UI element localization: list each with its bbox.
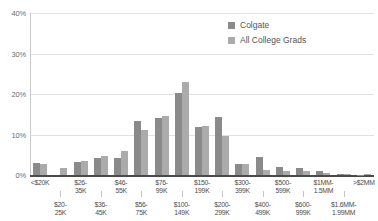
tick-mark xyxy=(263,191,264,197)
bar-group xyxy=(313,13,333,175)
bar xyxy=(283,171,290,175)
bar-group xyxy=(70,13,90,175)
bar xyxy=(276,167,283,175)
bar xyxy=(195,127,202,175)
bar-group xyxy=(111,13,131,175)
tick-mark xyxy=(182,191,183,197)
legend-item-colgate: Colgate xyxy=(228,20,306,30)
income-distribution-chart: 0%10%20%30%40% Colgate All College Grads… xyxy=(0,0,378,221)
bar-group xyxy=(30,13,50,175)
legend-swatch-icon xyxy=(228,37,235,44)
bar xyxy=(296,168,303,175)
bar xyxy=(215,117,222,175)
legend-label: Colgate xyxy=(240,20,269,30)
bar xyxy=(242,164,249,175)
bar xyxy=(256,157,263,175)
bar xyxy=(81,161,88,175)
bar-group xyxy=(151,13,171,175)
chart-legend: Colgate All College Grads xyxy=(228,20,306,50)
x-axis-tick-label-text: >$2MM xyxy=(348,179,378,187)
bar xyxy=(316,171,323,175)
tick-mark xyxy=(141,191,142,197)
bar xyxy=(337,174,344,175)
bar-group xyxy=(334,13,354,175)
bar xyxy=(235,164,242,175)
bar xyxy=(33,163,40,175)
bar xyxy=(323,173,330,175)
y-axis-tick-label: 20% xyxy=(0,90,26,99)
bar xyxy=(162,116,169,175)
bar xyxy=(175,93,182,175)
bar-group xyxy=(131,13,151,175)
tick-mark xyxy=(303,191,304,197)
bar xyxy=(101,156,108,175)
bar xyxy=(121,151,128,175)
bar xyxy=(74,162,81,175)
bar xyxy=(134,121,141,175)
y-axis-tick-label: 10% xyxy=(0,131,26,140)
bar-group xyxy=(172,13,192,175)
bar xyxy=(263,170,270,175)
tick-mark xyxy=(101,191,102,197)
legend-swatch-icon xyxy=(228,22,235,29)
tick-mark xyxy=(344,191,345,197)
tick-mark xyxy=(222,191,223,197)
bar xyxy=(222,136,229,175)
bar xyxy=(60,168,67,175)
bar xyxy=(344,174,351,175)
x-axis-tick-label: >$2MM xyxy=(354,177,374,221)
legend-item-all-college-grads: All College Grads xyxy=(228,35,306,45)
y-axis-tick-label: 40% xyxy=(0,9,26,18)
bar xyxy=(155,118,162,176)
legend-label: All College Grads xyxy=(240,35,306,45)
bar xyxy=(114,158,121,175)
bar xyxy=(182,82,189,175)
bar xyxy=(94,158,101,175)
bar xyxy=(303,171,310,175)
bar xyxy=(141,130,148,175)
bar-group xyxy=(192,13,212,175)
bar xyxy=(202,126,209,175)
y-axis-tick-label: 30% xyxy=(0,50,26,59)
bar xyxy=(40,164,47,175)
bar-series-container xyxy=(30,13,374,175)
bar-group xyxy=(50,13,70,175)
bar xyxy=(364,174,371,175)
x-axis-tick-labels: <$20K$20-25K$26-35K$36-45K$46-55K$56-75K… xyxy=(30,177,374,221)
bar-group xyxy=(91,13,111,175)
bar-group xyxy=(354,13,374,175)
tick-mark xyxy=(60,191,61,197)
y-axis-tick-label: 0% xyxy=(0,171,26,180)
